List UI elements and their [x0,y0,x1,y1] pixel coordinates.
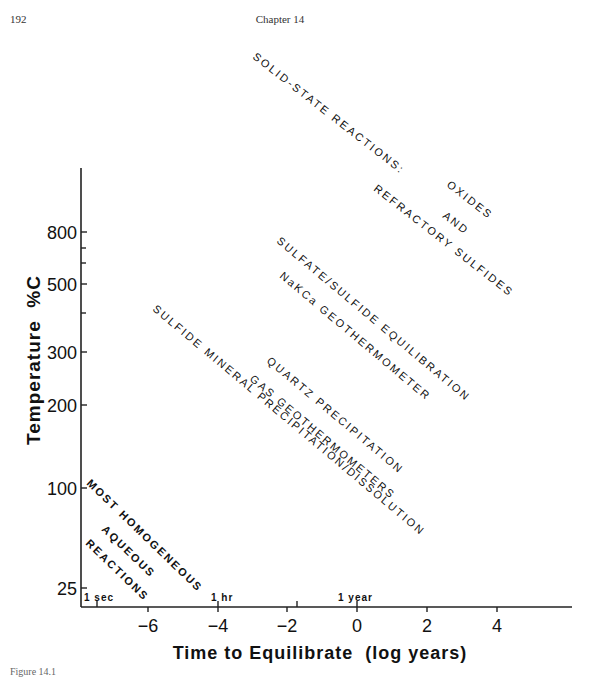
x-tick-label: −2 [277,616,298,636]
y-ticks [81,232,87,588]
x-axis-title: Time to Equilibrate (log years) [173,643,468,663]
x-tick-label: 0 [352,616,362,636]
y-tick-label: 100 [47,479,77,499]
x-tick-label: 4 [492,616,502,636]
time-marker-1-sec: 1 sec [84,592,114,603]
time-marker-1-year: 1 year [338,592,373,603]
annotation-sulfate-sulfide: SULFATE/SULFIDE EQUILIBRATION [275,234,473,403]
chart: 800 500 300 200 100 25 −6 −4 −2 0 2 4 1 … [0,0,590,678]
y-tick-label: 200 [47,396,77,416]
figure-caption: Figure 14.1 [10,666,56,677]
y-tick-label: 25 [57,579,77,599]
y-axis-title: Temperature %C [23,275,44,445]
x-tick-label: −4 [208,616,229,636]
y-tick-label: 500 [47,275,77,295]
time-marker-1-hr: 1 hr [211,592,233,603]
annotation-refractory-sulfides: REFRACTORY SULFIDES [372,182,516,298]
annotation-solid-state: SOLID-STATE REACTIONS: [251,50,407,176]
y-tick-label: 800 [47,223,77,243]
annotation-most-homogeneous: MOST HOMOGENEOUS [85,477,206,594]
x-tick-label: −6 [138,616,159,636]
x-tick-label: 2 [422,616,432,636]
annotation-gas-geothermometers: GAS GEOTHERMOMETERS [248,372,398,501]
y-tick-label: 300 [47,343,77,363]
annotation-sulfide-mineral: SULFIDE MINERAL PRECIPITATION/DISSOLUTIO… [151,302,428,537]
